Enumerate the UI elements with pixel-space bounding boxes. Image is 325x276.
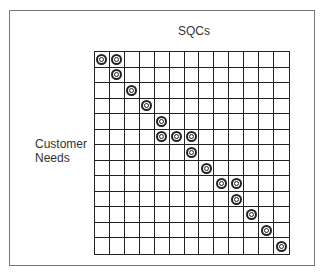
matrix-cell: [229, 68, 244, 84]
matrix-cell: [244, 238, 259, 254]
matrix-cell: [244, 130, 259, 146]
matrix-cell: [110, 99, 125, 115]
double-circle-icon: [216, 178, 227, 189]
matrix-cell: [155, 52, 170, 68]
matrix-cell: [259, 207, 274, 223]
matrix-cell: [155, 114, 170, 130]
matrix-cell: [155, 192, 170, 208]
matrix-cell: [155, 223, 170, 239]
matrix-cell: [110, 83, 125, 99]
matrix-cell: [229, 161, 244, 177]
matrix-cell: [229, 114, 244, 130]
matrix-cell: [95, 130, 110, 146]
matrix-cell: [244, 207, 259, 223]
matrix-cell: [199, 114, 214, 130]
row-header-customer-needs: Customer Needs: [35, 137, 87, 165]
matrix-cell: [259, 145, 274, 161]
matrix-cell: [125, 68, 140, 84]
matrix-cell: [155, 176, 170, 192]
matrix-cell: [214, 145, 229, 161]
matrix-cell: [229, 238, 244, 254]
matrix-cell: [259, 52, 274, 68]
matrix-cell: [125, 161, 140, 177]
double-circle-icon: [171, 131, 182, 142]
double-circle-icon: [186, 147, 197, 158]
matrix-cell: [140, 99, 155, 115]
double-circle-icon: [156, 116, 167, 127]
matrix-cell: [110, 161, 125, 177]
matrix-cell: [170, 99, 185, 115]
matrix-cell: [274, 68, 289, 84]
matrix-cell: [199, 68, 214, 84]
matrix-cell: [214, 176, 229, 192]
double-circle-icon: [231, 178, 242, 189]
matrix-cell: [110, 68, 125, 84]
row-header-line2: Needs: [35, 151, 87, 165]
matrix-cell: [170, 176, 185, 192]
matrix-cell: [95, 192, 110, 208]
matrix-cell: [199, 192, 214, 208]
matrix-cell: [244, 223, 259, 239]
matrix-cell: [199, 52, 214, 68]
matrix-cell: [140, 238, 155, 254]
matrix-cell: [274, 176, 289, 192]
matrix-cell: [274, 161, 289, 177]
matrix-cell: [259, 238, 274, 254]
matrix-cell: [229, 207, 244, 223]
matrix-cell: [170, 238, 185, 254]
matrix-cell: [229, 176, 244, 192]
matrix-cell: [214, 114, 229, 130]
matrix-cell: [170, 52, 185, 68]
matrix-cell: [199, 99, 214, 115]
matrix-cell: [170, 130, 185, 146]
double-circle-icon: [111, 69, 122, 80]
matrix-cell: [244, 114, 259, 130]
matrix-cell: [170, 83, 185, 99]
double-circle-icon: [231, 194, 242, 205]
matrix-cell: [95, 207, 110, 223]
matrix-cell: [155, 130, 170, 146]
matrix-cell: [244, 161, 259, 177]
matrix-cell: [155, 207, 170, 223]
matrix-cell: [229, 145, 244, 161]
matrix-cell: [110, 114, 125, 130]
matrix-cell: [125, 145, 140, 161]
matrix-cell: [229, 192, 244, 208]
matrix-cell: [214, 192, 229, 208]
matrix-cell: [259, 176, 274, 192]
matrix-cell: [140, 83, 155, 99]
matrix-cell: [140, 114, 155, 130]
matrix-cell: [95, 145, 110, 161]
matrix-cell: [229, 130, 244, 146]
matrix-cell: [125, 192, 140, 208]
matrix-cell: [155, 145, 170, 161]
matrix-cell: [214, 52, 229, 68]
matrix-cell: [185, 83, 200, 99]
matrix-cell: [244, 99, 259, 115]
matrix-cell: [185, 207, 200, 223]
matrix-cell: [259, 68, 274, 84]
matrix-cell: [170, 145, 185, 161]
matrix-cell: [214, 83, 229, 99]
matrix-cell: [199, 83, 214, 99]
matrix-cell: [95, 176, 110, 192]
matrix-cell: [274, 207, 289, 223]
double-circle-icon: [156, 131, 167, 142]
matrix-cell: [274, 83, 289, 99]
matrix-cell: [244, 68, 259, 84]
matrix-cell: [185, 223, 200, 239]
matrix-cell: [95, 114, 110, 130]
matrix-cell: [229, 99, 244, 115]
matrix-cell: [185, 52, 200, 68]
matrix-cell: [185, 145, 200, 161]
column-header-sqcs: SQCs: [178, 24, 210, 38]
matrix-cell: [244, 83, 259, 99]
matrix-cell: [259, 114, 274, 130]
double-circle-icon: [246, 209, 257, 220]
matrix-cell: [199, 207, 214, 223]
matrix-cell: [140, 130, 155, 146]
double-circle-icon: [276, 241, 287, 252]
matrix-cell: [95, 238, 110, 254]
matrix-cell: [125, 238, 140, 254]
matrix-cell: [229, 52, 244, 68]
